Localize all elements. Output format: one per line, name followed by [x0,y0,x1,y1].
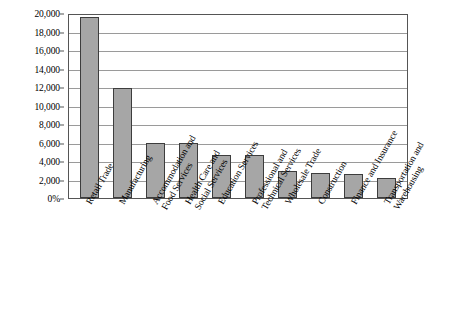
y-axis-tick-mark [60,14,64,15]
y-axis-tick-mark [60,106,64,107]
y-axis-tick-label: 2,000 [39,176,60,186]
y-axis-tick-mark [60,143,64,144]
y-axis-tick-label: 6,000 [39,139,60,149]
y-axis-tick-label: 18,000 [34,28,60,38]
y-axis-tick-label: 4,000 [39,157,60,167]
y-axis: 20,00018,00016,00014,00012,00010,0008,00… [16,14,64,199]
y-axis-tick-label: 0% [48,194,60,204]
y-axis-tick-mark [60,162,64,163]
y-axis-tick-label: 8,000 [39,120,60,130]
y-axis-tick-mark [60,125,64,126]
y-axis-tick-mark [60,199,64,200]
x-axis: Retail TradeManufacturingAccommodation a… [68,201,408,306]
y-axis-tick-mark [60,180,64,181]
y-axis-tick-mark [60,69,64,70]
y-axis-tick-mark [60,88,64,89]
y-axis-tick-label: 20,000 [34,9,60,19]
y-axis-tick-mark [60,51,64,52]
y-axis-tick-label: 10,000 [34,102,60,112]
y-axis-tick-label: 14,000 [34,65,60,75]
y-axis-tick-label: 16,000 [34,46,60,56]
y-axis-tick-label: 12,000 [34,83,60,93]
bar-chart: 20,00018,00016,00014,00012,00010,0008,00… [0,0,451,331]
y-axis-tick-mark [60,32,64,33]
bar [80,17,99,198]
